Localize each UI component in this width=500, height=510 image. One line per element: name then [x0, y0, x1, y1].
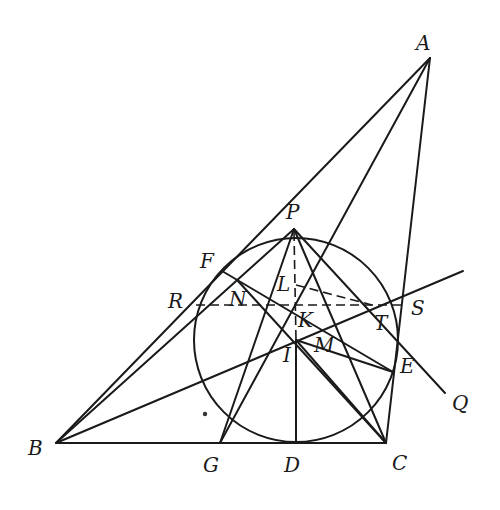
point-label-k: K [297, 308, 314, 332]
point-label-n: N [228, 287, 248, 311]
point-label-d: D [283, 453, 300, 477]
point-label-i: I [282, 343, 292, 367]
point-label-q: Q [452, 391, 468, 415]
point-label-m: M [313, 333, 335, 357]
geometry-diagram: ABCDGPFRNLKIMSTEQ [0, 0, 500, 510]
point-label-a: A [414, 31, 430, 55]
stray-dot [203, 412, 207, 416]
point-label-f: F [199, 249, 215, 273]
point-label-b: B [27, 436, 43, 460]
line-ag [220, 58, 430, 443]
point-label-c: C [392, 451, 407, 475]
line-bp [56, 229, 294, 443]
point-label-e: E [399, 354, 415, 378]
point-label-g: G [203, 453, 219, 477]
point-label-p: P [285, 200, 300, 224]
side-ab [56, 58, 430, 443]
side-ca [386, 58, 430, 443]
point-label-t: T [374, 311, 389, 335]
dashed-pi [294, 232, 296, 340]
point-label-r: R [167, 289, 183, 313]
point-label-l: L [276, 272, 290, 296]
point-label-s: S [411, 296, 425, 320]
